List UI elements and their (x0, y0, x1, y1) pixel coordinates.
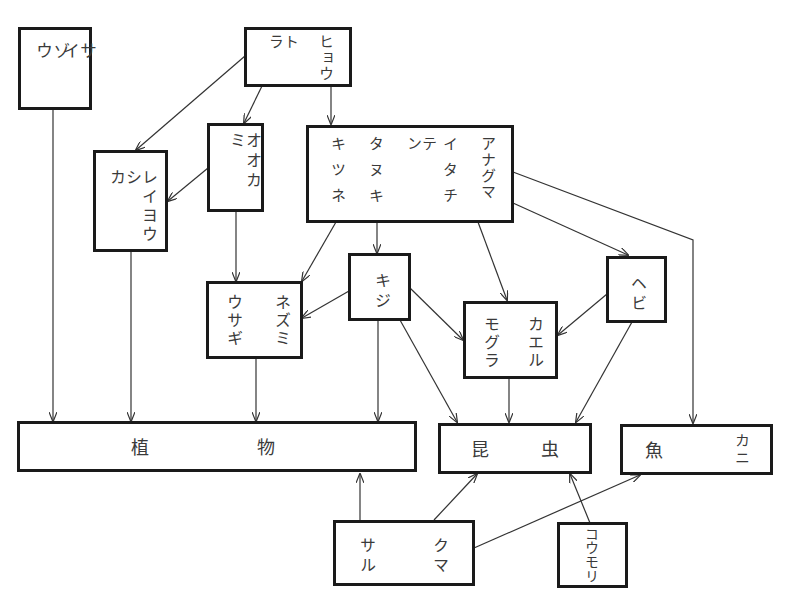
node-bat: コウモリ (557, 522, 628, 588)
node-plants: 植 物 (17, 421, 417, 472)
label-tiger: トラ (267, 34, 297, 84)
node-pheasant: キジ (348, 253, 411, 321)
node-tiger-leopard: トラ ヒョウ (244, 27, 352, 87)
label-antelope: レイヨウ (140, 169, 156, 245)
label-wolf: オオカミ (228, 132, 260, 209)
label-leopard: ヒョウ (317, 34, 332, 82)
label-deer: シカ (108, 169, 140, 249)
label-plants-2: 物 (257, 439, 275, 457)
label-insects-2: 虫 (541, 441, 559, 459)
food-web-diagram: ゾウ サイ トラ ヒョウ オオカミ シカ レイヨウ キツネ タヌキ テン イタチ… (0, 0, 790, 603)
label-plants-1: 植 (131, 439, 149, 457)
label-raccoon-dog: タヌキ (367, 136, 382, 214)
node-insects: 昆 虫 (438, 423, 592, 474)
label-pheasant: キジ (373, 272, 389, 312)
node-wolf: オオカミ (207, 123, 264, 212)
label-badger: アナグマ (479, 136, 494, 200)
label-frog: カエル (526, 316, 542, 370)
label-mouse: ネズミ (273, 294, 289, 348)
label-rhino: サイ (61, 42, 95, 107)
label-crab: カニ (733, 433, 748, 467)
label-snake: ヘビ (629, 275, 645, 315)
label-fox: キツネ (329, 136, 344, 214)
node-deer-antelope: シカ レイヨウ (93, 150, 168, 252)
label-monkey: サル (358, 537, 374, 577)
label-weasel: イタチ (441, 136, 456, 214)
node-fish-crab: 魚 カニ (620, 424, 773, 475)
node-mole-frog: モグラ カエル (463, 301, 558, 379)
label-rabbit: ウサギ (225, 294, 241, 348)
label-mole: モグラ (482, 316, 498, 370)
node-rabbit-mouse: ウサギ ネズミ (206, 281, 303, 359)
node-monkey-bear: サル クマ (333, 520, 475, 586)
label-marten: テン (405, 136, 435, 220)
label-bear: クマ (431, 537, 447, 577)
label-fish: 魚 (645, 442, 663, 460)
node-elephant-rhino: ゾウ サイ (18, 27, 92, 110)
label-bat: コウモリ (584, 527, 598, 583)
node-mustelids: キツネ タヌキ テン イタチ アナグマ (306, 125, 514, 223)
node-snake: ヘビ (606, 256, 667, 323)
label-insects-1: 昆 (471, 441, 489, 459)
